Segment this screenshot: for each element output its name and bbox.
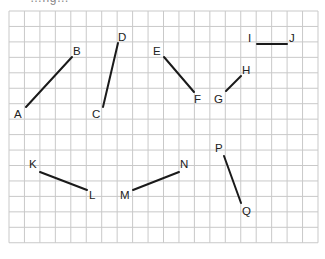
point-label-d: D [118,31,126,43]
segment-ab [26,57,72,107]
point-label-b: B [73,45,81,57]
point-label-i: I [248,32,251,44]
point-label-f: F [194,93,201,105]
point-label-p: P [215,142,223,154]
point-label-e: E [153,45,161,57]
square-grid [9,11,318,243]
point-label-j: J [289,32,295,44]
point-label-g: G [214,93,223,105]
point-label-a: A [14,108,22,120]
point-labels-layer: ABCDEFGHIJKLMNPQ [14,31,295,217]
point-label-n: N [180,158,188,170]
point-label-l: L [89,189,96,201]
point-label-q: Q [242,205,251,217]
point-label-h: H [242,64,250,76]
point-label-m: M [120,189,130,201]
point-label-k: K [29,158,37,170]
point-label-c: C [92,108,100,120]
segment-cd [103,43,118,107]
grid-canvas: ABCDEFGHIJKLMNPQ [0,0,325,259]
